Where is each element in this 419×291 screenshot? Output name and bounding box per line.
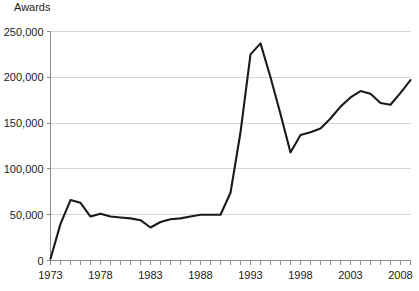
x-tick-label-1993: 1993 bbox=[238, 269, 262, 281]
y-tick-label-0: 0 bbox=[37, 255, 43, 267]
awards-line-chart: Awards 050,000100,000150,000200,000250,0… bbox=[0, 0, 419, 291]
x-tick-marks-group bbox=[51, 261, 411, 265]
y-tick-label-150000: 150,000 bbox=[4, 117, 44, 129]
chart-plot-area: 050,000100,000150,000200,000250,000 1973… bbox=[0, 0, 419, 291]
x-tick-label-1988: 1988 bbox=[188, 269, 212, 281]
x-tick-label-1998: 1998 bbox=[288, 269, 312, 281]
data-series-awards bbox=[51, 43, 411, 258]
x-tick-labels-group: 19731978198319881993199820032008 bbox=[38, 269, 412, 281]
x-tick-label-1978: 1978 bbox=[88, 269, 112, 281]
y-tick-labels-group: 050,000100,000150,000200,000250,000 bbox=[4, 26, 44, 267]
y-tick-label-100000: 100,000 bbox=[4, 163, 44, 175]
x-tick-label-2003: 2003 bbox=[338, 269, 362, 281]
y-tick-label-200000: 200,000 bbox=[4, 71, 44, 83]
x-tick-label-2008: 2008 bbox=[388, 269, 412, 281]
y-tick-label-250000: 250,000 bbox=[4, 26, 44, 38]
y-tick-marks-group bbox=[47, 32, 51, 261]
x-tick-label-1983: 1983 bbox=[138, 269, 162, 281]
y-tick-label-50000: 50,000 bbox=[10, 209, 44, 221]
x-tick-label-1973: 1973 bbox=[38, 269, 62, 281]
